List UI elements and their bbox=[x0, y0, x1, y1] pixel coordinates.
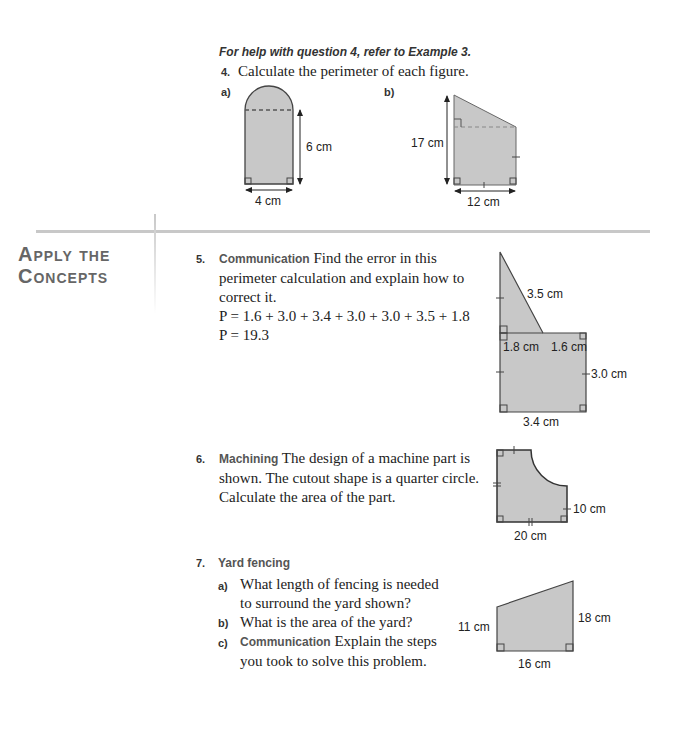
q7-bottom-label: 16 cm bbox=[518, 657, 551, 671]
q7-right-label: 18 cm bbox=[578, 611, 611, 625]
q7-figure bbox=[0, 0, 674, 746]
q7-left-label: 11 cm bbox=[458, 620, 490, 634]
